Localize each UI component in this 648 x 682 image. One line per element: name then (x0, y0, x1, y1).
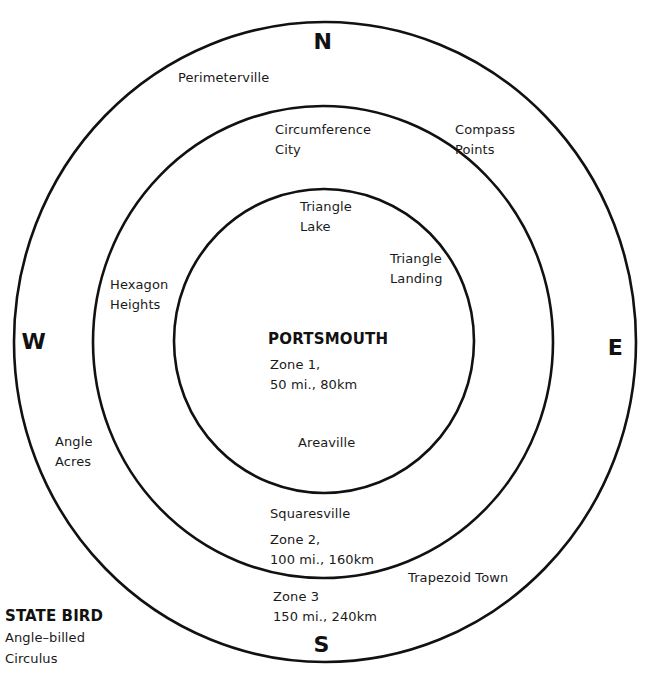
place-name: Triangle (390, 249, 443, 269)
place-name: Landing (390, 269, 443, 289)
place-name: Points (455, 140, 515, 160)
place-circumference-city: Circumference City (275, 120, 371, 160)
place-name: Lake (300, 217, 352, 237)
legend-line: Circulus (5, 648, 103, 669)
place-name: Squaresville (270, 504, 350, 524)
place-name: Compass (455, 120, 515, 140)
place-squaresville: Squaresville (270, 504, 350, 524)
place-name: City (275, 140, 371, 160)
compass-north: N (314, 31, 332, 53)
state-bird-legend: STATE BIRD Angle–billed Circulus (5, 606, 103, 669)
place-hexagon-heights: Hexagon Heights (110, 275, 168, 315)
zone-1-name: Zone 1, (270, 355, 357, 375)
zone-3-distance: 150 mi., 240km (273, 607, 377, 627)
place-areaville: Areaville (298, 433, 355, 453)
capital-label: PORTSMOUTH (268, 330, 388, 348)
compass-west: W (21, 331, 45, 353)
zone-3-label: Zone 3 150 mi., 240km (273, 587, 377, 627)
zone-3-name: Zone 3 (273, 587, 377, 607)
place-name: Trapezoid Town (408, 568, 508, 588)
place-name: Hexagon (110, 275, 168, 295)
place-name: Heights (110, 295, 168, 315)
zone-1-label: Zone 1, 50 mi., 80km (270, 355, 357, 395)
place-name: Angle (55, 432, 93, 452)
compass-east: E (608, 337, 623, 359)
zone-2-label: Zone 2, 100 mi., 160km (270, 530, 374, 570)
place-triangle-landing: Triangle Landing (390, 249, 443, 289)
place-triangle-lake: Triangle Lake (300, 197, 352, 237)
zone-2-distance: 100 mi., 160km (270, 550, 374, 570)
place-trapezoid-town: Trapezoid Town (408, 568, 508, 588)
place-angle-acres: Angle Acres (55, 432, 93, 472)
place-name: Areaville (298, 433, 355, 453)
zone-2-name: Zone 2, (270, 530, 374, 550)
place-name: Acres (55, 452, 93, 472)
place-name: Circumference (275, 120, 371, 140)
place-name: Perimeterville (178, 68, 269, 88)
place-perimeterville: Perimeterville (178, 68, 269, 88)
legend-line: Angle–billed (5, 627, 103, 648)
compass-south: S (314, 634, 330, 656)
place-compass-points: Compass Points (455, 120, 515, 160)
legend-title: STATE BIRD (5, 606, 103, 627)
zone-1-distance: 50 mi., 80km (270, 375, 357, 395)
place-name: Triangle (300, 197, 352, 217)
